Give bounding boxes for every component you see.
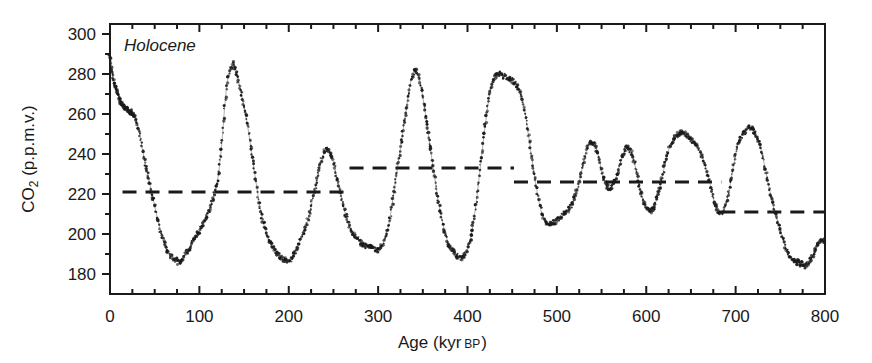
- data-point: [249, 139, 252, 142]
- data-point: [425, 120, 428, 123]
- data-point: [759, 147, 762, 150]
- data-point: [397, 157, 399, 159]
- data-point: [217, 171, 219, 173]
- data-point: [432, 169, 435, 172]
- data-point: [250, 146, 253, 149]
- data-point: [628, 151, 630, 153]
- data-point: [656, 193, 659, 196]
- data-point: [526, 127, 529, 130]
- data-point: [762, 155, 764, 157]
- data-point: [575, 192, 578, 195]
- data-point: [761, 152, 763, 154]
- data-point: [640, 191, 643, 194]
- data-point: [411, 76, 414, 79]
- data-point: [206, 212, 208, 214]
- data-point: [348, 221, 351, 224]
- data-point: [516, 85, 518, 87]
- data-point: [169, 257, 171, 259]
- y-axis-title: CO2 (p.p.m.v.): [19, 105, 41, 212]
- data-point: [393, 186, 396, 189]
- data-point: [349, 225, 351, 227]
- data-point: [491, 84, 493, 86]
- data-point: [141, 141, 143, 143]
- data-point: [299, 239, 301, 241]
- data-point: [308, 219, 310, 221]
- data-point: [252, 167, 254, 169]
- y-tick-label: 200: [68, 225, 96, 244]
- data-point: [437, 195, 440, 198]
- data-point: [674, 137, 676, 139]
- data-point: [772, 204, 775, 207]
- data-point: [578, 186, 580, 188]
- data-point: [639, 188, 641, 190]
- data-point: [405, 106, 408, 109]
- data-point: [479, 160, 482, 163]
- data-point: [317, 172, 319, 174]
- data-point: [438, 204, 441, 207]
- data-point: [402, 129, 405, 132]
- data-point: [542, 214, 544, 216]
- data-point: [342, 205, 345, 208]
- data-point: [662, 174, 664, 176]
- data-point: [530, 152, 532, 154]
- data-point: [298, 244, 300, 246]
- data-point: [390, 218, 392, 220]
- data-point: [739, 138, 742, 141]
- data-point: [315, 187, 317, 189]
- x-tick-label: 0: [105, 307, 114, 326]
- data-point: [479, 175, 481, 177]
- data-point: [453, 251, 455, 253]
- data-point: [731, 173, 733, 175]
- data-point: [814, 251, 816, 253]
- x-tick-label: 700: [721, 307, 749, 326]
- data-point: [219, 155, 222, 158]
- data-point: [466, 250, 468, 252]
- data-point: [482, 136, 485, 139]
- data-point: [393, 191, 396, 194]
- data-point: [698, 148, 700, 150]
- data-point: [308, 215, 311, 218]
- data-point: [109, 60, 111, 62]
- data-point: [568, 207, 571, 210]
- data-point: [340, 195, 343, 198]
- data-point: [222, 132, 224, 134]
- data-point: [470, 229, 473, 232]
- data-point: [397, 161, 400, 164]
- data-point: [526, 120, 528, 122]
- data-point: [303, 233, 305, 235]
- data-point: [391, 202, 394, 205]
- co2-figure-panel: 0100200300400500600700800 18020022024026…: [0, 0, 872, 363]
- data-point: [334, 172, 336, 174]
- data-point: [334, 175, 337, 178]
- data-point: [729, 186, 732, 189]
- data-point: [258, 198, 260, 200]
- data-point: [205, 216, 208, 219]
- data-point: [767, 183, 770, 186]
- data-point: [529, 139, 532, 142]
- data-point: [342, 201, 344, 203]
- data-point: [598, 161, 601, 164]
- data-point: [754, 130, 757, 133]
- data-point: [598, 158, 601, 161]
- data-point: [707, 174, 709, 176]
- data-point: [252, 162, 255, 165]
- data-point: [573, 198, 576, 201]
- data-point: [654, 202, 656, 204]
- data-point: [470, 234, 473, 237]
- data-point: [763, 159, 765, 161]
- data-point: [734, 162, 736, 164]
- data-point: [252, 160, 255, 163]
- data-point: [391, 206, 393, 208]
- data-point: [787, 249, 789, 251]
- y-axis-title-units: (p.p.m.v.): [19, 105, 38, 180]
- x-tick-label: 200: [275, 307, 303, 326]
- data-point: [444, 230, 446, 232]
- x-axis-title-subscript: BP: [464, 337, 480, 351]
- data-point: [212, 198, 215, 201]
- data-point: [712, 197, 714, 199]
- data-point: [256, 191, 258, 193]
- data-point: [435, 182, 437, 184]
- data-point: [160, 230, 162, 232]
- data-point: [330, 152, 332, 154]
- data-point: [401, 135, 403, 137]
